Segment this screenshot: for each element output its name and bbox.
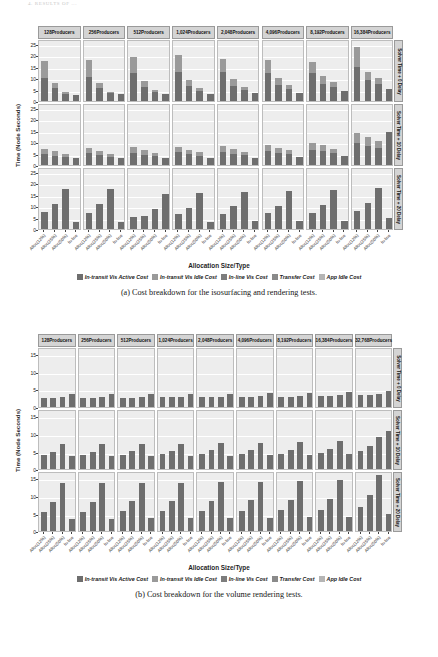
bar	[130, 147, 137, 165]
bar-segment	[96, 155, 103, 165]
facet-panel	[38, 410, 76, 470]
bar	[162, 158, 169, 165]
legend: In-transit Vis Active CostIn-transit Vis…	[0, 274, 438, 280]
bar-segment	[50, 502, 56, 532]
gridline	[39, 480, 75, 481]
bar	[218, 443, 224, 469]
bar-segment	[375, 78, 382, 84]
column-facet-header: 16,384Producers	[315, 334, 353, 347]
bar-segment	[175, 55, 182, 72]
x-axis-tick-mark	[222, 230, 223, 232]
bar-segment	[141, 81, 148, 87]
legend-item: In-line Vis Cost	[221, 274, 268, 280]
bar	[227, 456, 233, 469]
facet-panel	[38, 104, 81, 166]
bar-segment	[367, 395, 373, 407]
gridline	[39, 110, 80, 111]
column-facet-header: 32,768Producers	[355, 334, 393, 347]
bar	[199, 397, 205, 407]
bar-segment	[199, 511, 205, 531]
x-axis-tick-mark	[52, 532, 53, 534]
bar	[265, 60, 272, 101]
gridline	[39, 46, 80, 47]
bar-segment	[148, 394, 154, 407]
bar-segment	[188, 456, 194, 469]
gridline	[218, 208, 259, 209]
bar-segment	[218, 443, 224, 469]
gridline	[352, 208, 393, 209]
gridline	[356, 418, 392, 419]
bar-segment	[288, 500, 294, 532]
legend-swatch	[77, 274, 83, 280]
gridline	[218, 185, 259, 186]
facet-panel	[276, 472, 314, 532]
bar-segment	[346, 392, 352, 407]
gridline	[352, 197, 393, 198]
bar-segment	[318, 396, 324, 407]
bar-segment	[286, 89, 293, 101]
x-axis-tick-mark	[348, 532, 349, 534]
bar	[96, 83, 103, 101]
bar	[286, 150, 293, 165]
bar-segment	[330, 82, 337, 87]
gridline	[307, 46, 348, 47]
bar-segment	[90, 502, 96, 532]
facet-panel	[172, 40, 215, 102]
bar-segment	[152, 90, 159, 92]
legend-label: In-transit Vis Active Cost	[85, 274, 148, 280]
bar-segment	[375, 141, 382, 148]
facet-panel	[83, 168, 126, 230]
bar	[318, 396, 324, 407]
facet-panel	[262, 168, 305, 230]
facet-panel	[157, 472, 195, 532]
legend-label: In-line Vis Cost	[229, 274, 268, 280]
bar	[386, 89, 393, 101]
gridline	[84, 185, 125, 186]
bar	[239, 454, 245, 469]
bar	[207, 222, 214, 230]
bar-segment	[239, 454, 245, 469]
bar	[148, 518, 154, 531]
bar-segment	[309, 213, 316, 230]
bar	[169, 397, 175, 407]
bar	[109, 519, 115, 532]
bar-segment	[341, 221, 348, 230]
bar-segment	[248, 500, 254, 531]
bar	[186, 150, 193, 166]
x-axis-tick-mark	[288, 230, 289, 232]
bar	[376, 475, 382, 531]
bar-segment	[375, 84, 382, 101]
bar-segment	[267, 393, 273, 407]
bar-segment	[69, 519, 75, 532]
column-facet-header: 8,192Producers	[276, 334, 314, 347]
bar	[207, 158, 214, 165]
bar	[337, 441, 343, 469]
bar-segment	[278, 510, 284, 531]
legend: In-transit Vis Active CostIn-transit Vis…	[0, 576, 438, 582]
bar	[175, 214, 182, 229]
x-axis-tick-mark	[180, 532, 181, 534]
bar	[41, 61, 48, 101]
facet-panel	[236, 410, 274, 470]
gridline	[263, 110, 304, 111]
bar-segment	[327, 499, 333, 532]
facet-panel	[236, 472, 274, 532]
bar	[52, 204, 59, 229]
bar-segment	[241, 155, 248, 165]
bar-segment	[186, 150, 193, 155]
bar-segment	[376, 437, 382, 469]
bar-segment	[209, 501, 215, 532]
bar-segment	[86, 77, 93, 101]
bar-segment	[346, 517, 352, 532]
bar-segment	[52, 151, 59, 155]
x-axis-tick-mark	[329, 532, 330, 534]
bar-segment	[239, 511, 245, 532]
bar	[209, 501, 215, 532]
bar-segment	[41, 154, 48, 165]
running-header: 4. RESULTS OF ...	[28, 1, 77, 6]
bar	[375, 78, 382, 101]
gridline	[79, 418, 115, 419]
bar-segment	[258, 443, 264, 469]
bar-segment	[52, 156, 59, 166]
bar	[309, 62, 316, 101]
